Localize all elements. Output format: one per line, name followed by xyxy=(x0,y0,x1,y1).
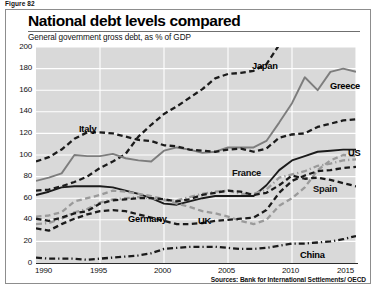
series-label-germany: Germany xyxy=(128,214,167,224)
x-tick-label-2005: 2005 xyxy=(218,266,235,275)
y-tick-label-100: 100 xyxy=(6,150,32,159)
page-title: National debt levels compared xyxy=(28,12,240,30)
figure-label: Figure 82 xyxy=(5,0,35,7)
y-tick-label-40: 40 xyxy=(6,214,32,223)
x-axis-line xyxy=(36,263,358,264)
y-tick-label-80: 80 xyxy=(6,171,32,180)
series-label-japan: Japan xyxy=(252,61,278,71)
series-label-italy: Italy xyxy=(79,124,96,134)
y-tick-label-140: 140 xyxy=(6,106,32,115)
x-tick-label-2015: 2015 xyxy=(337,266,354,275)
y-tick-label-180: 180 xyxy=(6,63,32,72)
chart-subtitle: General government gross debt, as % of G… xyxy=(28,33,191,42)
y-tick-label-200: 200 xyxy=(6,42,32,51)
series-line-france xyxy=(36,159,356,224)
y-tick-label-0: 0 xyxy=(6,258,32,267)
y-tick-label-20: 20 xyxy=(6,236,32,245)
series-label-us: US xyxy=(348,148,360,158)
series-line-spain xyxy=(36,155,356,224)
series-label-spain: Spain xyxy=(313,184,337,194)
chart-plot-area xyxy=(36,47,356,263)
x-tick-label-2010: 2010 xyxy=(282,266,299,275)
series-label-uk: UK xyxy=(198,216,211,226)
series-label-china: China xyxy=(300,250,325,260)
series-label-greece: Greece xyxy=(330,81,360,91)
x-tick-label-1995: 1995 xyxy=(90,266,107,275)
y-tick-label-120: 120 xyxy=(6,128,32,137)
title-divider xyxy=(28,31,360,32)
x-tick-label-2000: 2000 xyxy=(154,266,171,275)
series-label-france: France xyxy=(232,168,261,178)
y-tick-label-160: 160 xyxy=(6,85,32,94)
chart-svg xyxy=(36,47,356,263)
source-note: Sources: Bank for International Settleme… xyxy=(211,276,366,283)
x-tick-label-1990: 1990 xyxy=(35,266,52,275)
y-tick-label-60: 60 xyxy=(6,193,32,202)
